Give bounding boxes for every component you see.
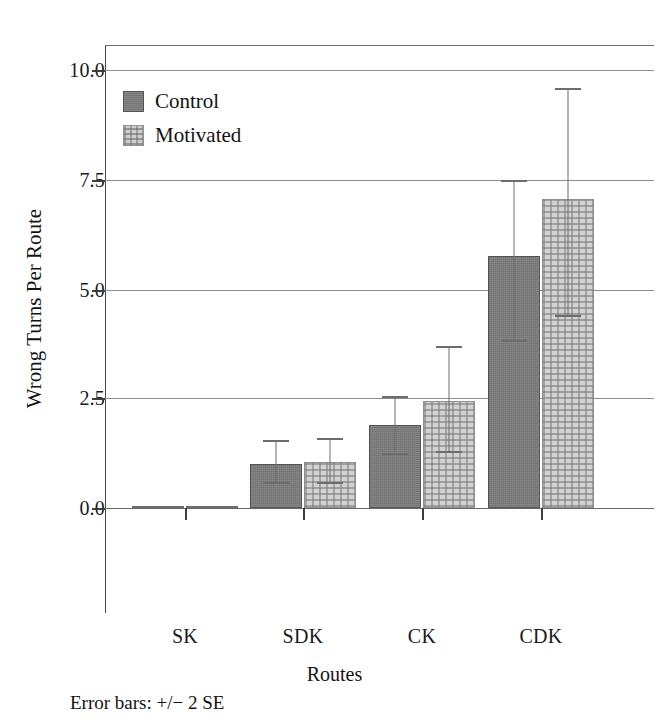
error-bar-footnote: Error bars: +/− 2 SE bbox=[70, 692, 224, 714]
chart-legend: Control Motivated bbox=[123, 84, 241, 152]
legend-item-control: Control bbox=[123, 84, 241, 118]
errorbar-ck-motivated bbox=[436, 346, 462, 453]
bars-layer bbox=[0, 0, 669, 725]
errorbar-stem bbox=[395, 396, 396, 455]
errorbar-cap-bottom bbox=[555, 315, 581, 317]
bar-sk-motivated bbox=[186, 506, 238, 508]
x-axis-title: Routes bbox=[0, 663, 669, 686]
legend-item-motivated: Motivated bbox=[123, 118, 241, 152]
errorbar-cap-bottom bbox=[501, 340, 527, 342]
errorbar-cap-top bbox=[555, 88, 581, 90]
errorbar-cap-top bbox=[436, 346, 462, 348]
errorbar-cap-bottom bbox=[382, 453, 408, 455]
errorbar-stem bbox=[568, 88, 569, 318]
errorbar-cap-top bbox=[263, 440, 289, 442]
errorbar-sdk-control bbox=[263, 440, 289, 484]
errorbar-sdk-motivated bbox=[317, 438, 343, 484]
legend-swatch-motivated-icon bbox=[123, 125, 144, 146]
errorbar-cap-top bbox=[317, 438, 343, 440]
errorbar-cap-bottom bbox=[263, 482, 289, 484]
xtick-mark-cdk bbox=[541, 508, 543, 520]
chart-figure: 10.0 7.5 5.0 2.5 0.0 Wrong Turns Per Rou… bbox=[0, 0, 669, 725]
errorbar-stem bbox=[276, 440, 277, 484]
xtick-mark-ck bbox=[422, 508, 424, 520]
errorbar-cap-bottom bbox=[317, 482, 343, 484]
errorbar-ck-control bbox=[382, 396, 408, 455]
errorbar-cap-bottom bbox=[436, 451, 462, 453]
errorbar-cap-top bbox=[501, 180, 527, 182]
xtick-mark-sk bbox=[185, 508, 187, 520]
legend-label-motivated: Motivated bbox=[155, 123, 241, 148]
errorbar-stem bbox=[330, 438, 331, 484]
legend-label-control: Control bbox=[155, 89, 219, 114]
xtick-mark-sdk bbox=[303, 508, 305, 520]
xtick-label-cdk: CDK bbox=[471, 625, 611, 648]
errorbar-stem bbox=[449, 346, 450, 453]
bar-sk-control bbox=[132, 506, 184, 508]
errorbar-cdk-control bbox=[501, 180, 527, 342]
errorbar-cap-top bbox=[382, 396, 408, 398]
errorbar-cdk-motivated bbox=[555, 88, 581, 318]
errorbar-stem bbox=[514, 180, 515, 342]
legend-swatch-control-icon bbox=[123, 91, 144, 112]
